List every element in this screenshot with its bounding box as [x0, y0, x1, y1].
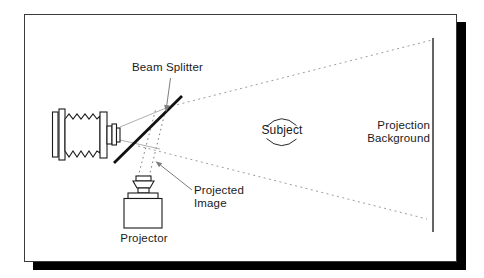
camera-icon	[53, 109, 121, 160]
projection-cone-upper-line	[172, 40, 432, 106]
beam-splitter-line	[114, 96, 182, 163]
projector-lens-cap	[136, 176, 151, 181]
projected-image-label-line1: Projected	[194, 184, 244, 197]
camera-back-slat-inner	[59, 109, 65, 160]
camera-bellows	[65, 114, 100, 157]
projector-label: Projector	[120, 232, 168, 245]
camera-back-slat-outer	[53, 112, 59, 157]
projector-lens-neck	[138, 188, 149, 193]
camera-sight-line-lower	[120, 140, 160, 149]
projector-icon	[124, 176, 162, 228]
figure: Beam Splitter Subject Projection Backgro…	[0, 0, 484, 278]
projector-body	[124, 199, 162, 229]
projected-image-pointer-arrow	[156, 161, 193, 190]
projection-background-label: Projection Background	[366, 119, 430, 145]
projector-lid	[128, 193, 158, 199]
projection-background-label-line1: Projection	[366, 119, 430, 132]
camera-lens-front	[117, 128, 121, 142]
subject-label: Subject	[255, 124, 309, 137]
camera-front-standard	[100, 112, 107, 158]
subject-circle-bottom-arc	[267, 139, 297, 146]
projected-image-label: Projected Image	[194, 184, 244, 210]
projector-ray-right	[149, 115, 165, 178]
projection-background-label-line2: Background	[366, 132, 430, 145]
projection-cone-lower-line	[138, 146, 427, 219]
projector-lens-flare	[133, 181, 154, 188]
projected-image-label-line2: Image	[194, 197, 244, 210]
camera-lens-ring-1	[107, 126, 112, 144]
beam-splitter-label: Beam Splitter	[132, 61, 203, 74]
camera-lens-ring-2	[112, 124, 117, 145]
